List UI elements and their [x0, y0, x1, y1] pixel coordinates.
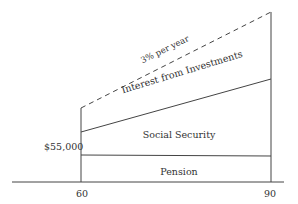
interest-label: Interest from Investments: [120, 48, 244, 95]
y-value-label: $55,000: [44, 141, 83, 152]
growth-dashed-line: [81, 12, 271, 108]
pension-top-line: [81, 155, 271, 156]
x-tick-90: 90: [264, 188, 276, 199]
pension-label: Pension: [160, 166, 197, 177]
growth-rate-label: 3% per year: [139, 33, 191, 65]
social-security-label: Social Security: [143, 129, 216, 140]
x-tick-60: 60: [76, 188, 88, 199]
retirement-income-diagram: $55,000 60 90 Pension Social Security In…: [0, 0, 298, 204]
social-security-top-line: [81, 79, 271, 132]
